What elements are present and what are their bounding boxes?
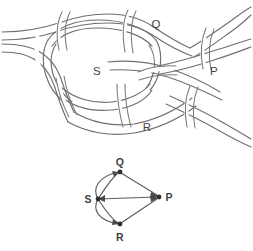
crossing-g-mask	[186, 88, 190, 124]
crossing-c-mask	[58, 80, 70, 114]
knot-label-s: S	[93, 65, 101, 77]
knot-label-r: R	[143, 121, 152, 133]
strand-upper-left-outer	[2, 14, 190, 48]
strand-oval-bottom-inner	[62, 84, 150, 102]
vertex-s	[96, 197, 101, 202]
graph-diagram-svg: Q S P R	[0, 150, 253, 251]
strand-bottomright-inner	[166, 104, 251, 147]
strand-oval-right-inner	[146, 45, 154, 88]
vertex-label-r: R	[116, 231, 124, 243]
strand-oval-top-inner	[52, 28, 152, 46]
strand-q-lower-bottom	[110, 70, 222, 100]
knot-diagram-panel: S Q P R	[0, 0, 253, 150]
vertex-label-q: Q	[116, 156, 124, 168]
figure-root: S Q P R	[0, 0, 253, 251]
crossing-a-over-right	[65, 12, 70, 50]
edge-s-q-right	[98, 173, 118, 199]
graph-diagram-panel: Q S P R	[0, 150, 253, 251]
crossing-f-mask	[202, 30, 206, 66]
vertex-p	[157, 195, 162, 200]
strand-bottomright-outer	[170, 96, 251, 139]
vertex-label-s: S	[84, 193, 91, 205]
knot-diagram-svg: S Q P R	[0, 0, 253, 150]
knot-label-q: Q	[151, 18, 160, 30]
edge-s-p	[99, 197, 156, 199]
edge-s-r-right	[98, 199, 118, 223]
knot-label-p: P	[210, 65, 218, 77]
vertex-q	[118, 170, 123, 175]
vertex-label-p: P	[165, 191, 172, 203]
edge-q-p	[121, 173, 157, 195]
strand-lower-long-top	[74, 98, 192, 125]
knot-strands	[2, 7, 251, 147]
strand-lower-long-bottom	[68, 106, 196, 134]
crossing-h-mask	[37, 36, 39, 66]
edge-r-p	[121, 199, 157, 223]
vertex-r	[118, 222, 123, 227]
